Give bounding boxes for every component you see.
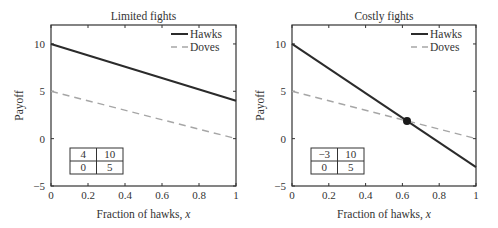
y-axis-label: Payoff [254, 90, 267, 121]
payoff-matrix: −31005 [311, 148, 364, 174]
x-tick-label: 0.4 [118, 189, 132, 201]
x-tick-label: 0.2 [322, 189, 336, 201]
legend-label-doves: Doves [430, 41, 460, 53]
x-axis-label: Fraction of hawks, x [337, 208, 432, 221]
matrix-cell: 10 [104, 148, 116, 160]
y-tick-label: −5 [274, 180, 286, 192]
x-tick-label: 0.8 [432, 189, 446, 201]
x-tick-label: 0.4 [359, 189, 373, 201]
y-tick-label: 5 [40, 85, 46, 97]
y-tick-label: 5 [281, 85, 287, 97]
figure: Limited fights00.20.40.60.81−50510Fracti… [0, 0, 498, 228]
chart-title: Limited fights [111, 10, 177, 23]
x-tick-label: 0 [48, 189, 54, 201]
chart-panel-limited-fights: Limited fights00.20.40.60.81−50510Fracti… [13, 10, 239, 221]
matrix-cell: 10 [345, 148, 357, 160]
y-tick-label: −5 [33, 180, 45, 192]
chart-panel-costly-fights: Costly fights00.20.40.60.81−50510Fractio… [254, 10, 479, 221]
legend-label-hawks: Hawks [430, 28, 462, 40]
legend: HawksDoves [171, 28, 222, 53]
matrix-cell: −3 [318, 148, 330, 160]
y-tick-label: 0 [281, 133, 287, 145]
x-tick-label: 0.6 [155, 189, 169, 201]
x-tick-label: 0.6 [396, 189, 410, 201]
x-axis-label: Fraction of hawks, x [97, 208, 192, 221]
y-tick-label: 10 [275, 38, 287, 50]
x-tick-label: 1 [473, 189, 479, 201]
matrix-cell: 5 [348, 161, 354, 173]
legend-label-hawks: Hawks [190, 28, 222, 40]
legend: HawksDoves [411, 28, 462, 53]
series-line-doves [292, 91, 476, 138]
x-tick-label: 1 [233, 189, 239, 201]
equilibrium-point [403, 117, 411, 125]
matrix-cell: 0 [81, 161, 87, 173]
legend-label-doves: Doves [190, 41, 220, 53]
series-line-doves [51, 91, 236, 138]
y-tick-label: 0 [40, 133, 46, 145]
x-tick-label: 0 [289, 189, 295, 201]
matrix-cell: 0 [322, 161, 328, 173]
chart-title: Costly fights [354, 10, 414, 23]
x-tick-label: 0.2 [81, 189, 95, 201]
y-tick-label: 10 [34, 38, 46, 50]
matrix-cell: 5 [107, 161, 113, 173]
y-axis-label: Payoff [13, 90, 26, 121]
x-tick-label: 0.8 [192, 189, 206, 201]
matrix-cell: 4 [81, 148, 87, 160]
payoff-matrix: 41005 [70, 148, 123, 174]
